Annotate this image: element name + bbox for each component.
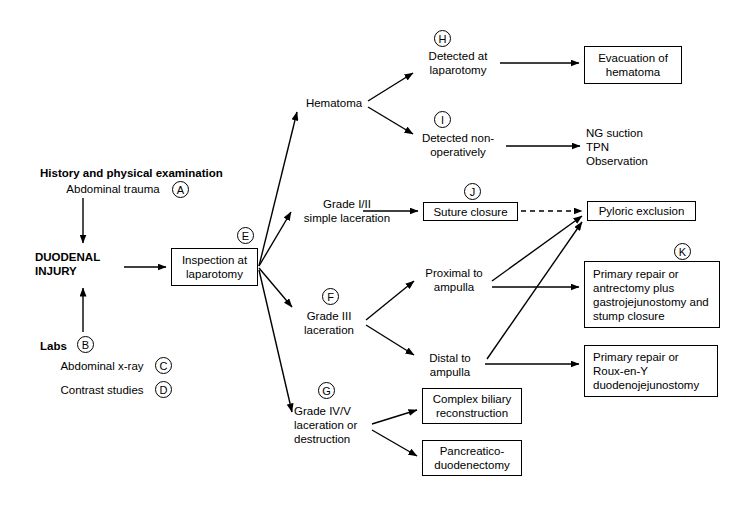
connector-grade45-to-biliary: [372, 410, 417, 424]
step-letter-d: D: [155, 381, 172, 398]
node-evacuation[interactable]: Evacuation of hematoma: [584, 46, 682, 84]
node-proximal: Proximal to ampulla: [418, 265, 490, 295]
node-pyloric[interactable]: Pyloric exclusion: [587, 201, 696, 221]
step-letter-b: B: [77, 336, 94, 353]
node-labs: Labs: [40, 339, 74, 353]
node-detected_lap: Detected at laparotomy: [418, 48, 498, 78]
step-letter-g: G: [318, 382, 335, 399]
node-grade45: Grade IV/V laceration or destruction: [294, 402, 376, 447]
node-roux[interactable]: Primary repair or Roux-en-Y duodenojejun…: [584, 345, 718, 397]
step-letter-i: I: [434, 111, 451, 128]
connector-hematoma-to-detected_lap: [368, 73, 413, 101]
connector-inspection-to-grade3: [259, 268, 292, 307]
node-ng_tpn_obs: NG suction TPN Observation: [586, 124, 696, 170]
step-letter-k: K: [674, 243, 691, 260]
connector-inspection-to-grade12: [259, 212, 291, 266]
step-letter-a: A: [172, 181, 189, 198]
connector-inspection-to-hematoma: [259, 112, 297, 266]
node-abd_xray: Abdominal x-ray: [53, 358, 151, 373]
node-contrast: Contrast studies: [53, 382, 151, 397]
step-letter-c: C: [155, 357, 172, 374]
connector-grade3-to-distal: [366, 325, 414, 355]
connector-inspection-to-grade45: [259, 270, 292, 412]
step-letter-j: J: [464, 183, 481, 200]
node-detected_nonop: Detected non- operatively: [412, 130, 504, 160]
connector-grade45-to-pancreatico: [372, 430, 417, 456]
step-letter-e: E: [237, 227, 254, 244]
node-suture[interactable]: Suture closure: [423, 202, 518, 221]
step-letter-h: H: [434, 30, 451, 47]
step-letter-f: F: [322, 288, 339, 305]
connector-hematoma-to-detected_nonop: [368, 107, 413, 134]
node-primary_k[interactable]: Primary repair or antrectomy plus gastro…: [584, 261, 720, 328]
node-history: History and physical examination: [40, 166, 240, 180]
connector-distal-to-pyloric: [487, 222, 582, 359]
connector-grade3-to-proximal: [366, 281, 414, 320]
node-pancreatico[interactable]: Pancreatico- duodenectomy: [422, 440, 522, 476]
node-grade12: Grade I/II simple laceration: [294, 196, 400, 226]
connector-proximal-to-pyloric: [492, 216, 582, 281]
node-grade3: Grade III laceration: [294, 308, 364, 338]
node-duodenal: DUODENAL INJURY: [35, 249, 125, 279]
node-distal: Distal to ampulla: [418, 350, 482, 380]
flowchart-canvas: History and physical examinationAbdomina…: [0, 0, 754, 506]
node-hematoma: Hematoma: [303, 95, 365, 110]
node-abd_trauma: Abdominal trauma: [58, 181, 168, 196]
node-biliary[interactable]: Complex biliary reconstruction: [422, 388, 522, 424]
node-inspection[interactable]: Inspection at laparotomy: [171, 248, 258, 286]
